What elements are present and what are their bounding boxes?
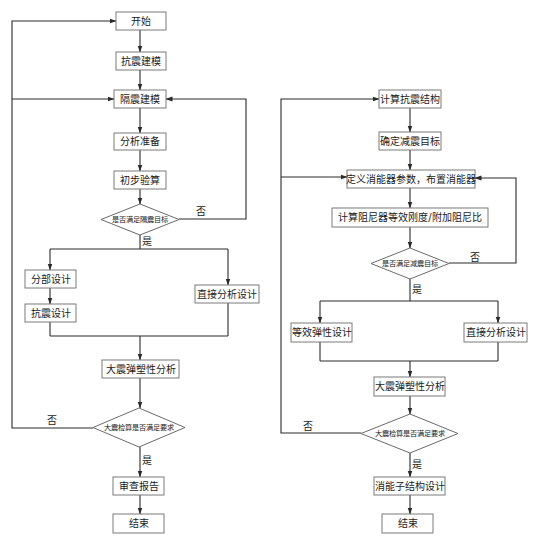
node-analysis-prep: 分析准备 — [114, 133, 166, 150]
energy-dissipation-design-flowchart: 计算抗震结构 确定减震目标 定义消能器参数，布置消能器 计算阻尼器等效刚度/附加… — [281, 90, 527, 533]
node-direct-analysis-design-label: 直接分析设计 — [197, 288, 257, 300]
node-equivalent-elastic-design: 等效弹性设计 — [291, 323, 352, 342]
node-direct-analysis-design: 直接分析设计 — [195, 285, 259, 303]
node-isolation-modeling-label: 隔震建模 — [120, 93, 160, 105]
node-end-label: 结束 — [129, 517, 149, 529]
node-partial-design: 分部设计 — [25, 270, 76, 288]
edge-label-no: 否 — [47, 415, 57, 426]
node-seismic-design-label: 抗震设计 — [31, 307, 71, 319]
decision-rare-eq-check: 大震检算是否满足要求 — [361, 414, 458, 453]
edge-label-no: 否 — [196, 206, 206, 217]
node-equivalent-elastic-design-label: 等效弹性设计 — [292, 326, 352, 338]
node-analysis-prep-label: 分析准备 — [120, 135, 160, 147]
node-start: 开始 — [116, 12, 166, 30]
node-define-dampers-label: 定义消能器参数，布置消能器 — [346, 173, 476, 185]
node-determine-damping-target-label: 确定减震目标 — [380, 135, 440, 147]
decision-isolation-target-label: 是否满足隔震目标 — [112, 215, 168, 224]
node-compute-seismic-structure-label: 计算抗震结构 — [380, 93, 440, 105]
decision-rare-eq-check-label: 大震检算是否满足要求 — [375, 429, 445, 438]
decision-rare-eq-check-label: 大震检算是否满足要求 — [104, 423, 174, 432]
node-compute-damper-stiffness: 计算阻尼器等效刚度/附加阻尼比 — [332, 208, 488, 227]
edge-label-no: 否 — [470, 252, 480, 263]
node-compute-damper-stiffness-label: 计算阻尼器等效刚度/附加阻尼比 — [338, 211, 481, 223]
loop-no-to-start — [12, 21, 116, 428]
node-end: 结束 — [382, 514, 433, 533]
node-review-report: 审查报告 — [113, 477, 164, 495]
node-define-dampers: 定义消能器参数，布置消能器 — [346, 170, 476, 188]
node-end-label: 结束 — [398, 517, 418, 529]
flowchart-canvas: 开始 抗震建模 隔震建模 分析准备 初步验算 是否满足隔震目标 否 是 分部设计 — [0, 0, 540, 548]
node-elastoplastic-analysis-label: 大震弹塑性分析 — [106, 363, 176, 375]
node-preliminary-check-label: 初步验算 — [120, 174, 160, 186]
decision-damping-target: 是否满足减震目标 — [371, 248, 449, 279]
edge-label-yes: 是 — [142, 236, 152, 247]
node-end: 结束 — [113, 514, 164, 533]
decision-rare-eq-check: 大震检算是否满足要求 — [93, 408, 185, 447]
node-review-report-label: 审查报告 — [119, 480, 159, 492]
right-connectors — [281, 99, 516, 514]
loop-no-to-compute-seismic-structure — [281, 99, 379, 433]
node-preliminary-check: 初步验算 — [114, 171, 166, 189]
node-direct-analysis-design-label: 直接分析设计 — [466, 326, 526, 338]
edge-label-yes: 是 — [412, 459, 422, 470]
node-start-label: 开始 — [131, 15, 151, 27]
node-seismic-design: 抗震设计 — [25, 304, 76, 322]
node-direct-analysis-design: 直接分析设计 — [464, 323, 527, 342]
node-elastoplastic-analysis: 大震弹塑性分析 — [102, 360, 179, 378]
isolation-design-flowchart: 开始 抗震建模 隔震建模 分析准备 初步验算 是否满足隔震目标 否 是 分部设计 — [12, 12, 259, 533]
node-compute-seismic-structure: 计算抗震结构 — [379, 90, 441, 108]
decision-isolation-target: 是否满足隔震目标 — [101, 204, 179, 235]
node-seismic-modeling-label: 抗震建模 — [121, 55, 161, 67]
node-seismic-modeling: 抗震建模 — [116, 52, 166, 70]
node-substructure-design-label: 消能子结构设计 — [375, 480, 445, 492]
node-determine-damping-target: 确定减震目标 — [379, 132, 441, 150]
loop-no-to-isolation-modeling — [166, 99, 246, 219]
edge-label-yes: 是 — [142, 455, 152, 466]
node-elastoplastic-analysis: 大震弹塑性分析 — [374, 377, 445, 396]
edge-label-no: 否 — [303, 421, 313, 432]
edge-label-yes: 是 — [412, 284, 422, 295]
node-substructure-design: 消能子结构设计 — [374, 477, 445, 495]
node-isolation-modeling: 隔震建模 — [114, 90, 166, 108]
decision-damping-target-label: 是否满足减震目标 — [382, 259, 438, 268]
node-elastoplastic-analysis-label: 大震弹塑性分析 — [375, 380, 445, 392]
node-partial-design-label: 分部设计 — [31, 273, 71, 285]
